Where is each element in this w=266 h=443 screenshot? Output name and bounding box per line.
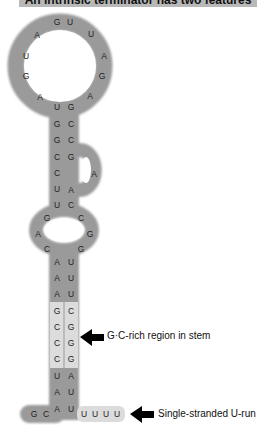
svg-text:C: C [54,322,60,332]
svg-text:A: A [68,371,74,381]
svg-text:A: A [35,229,41,239]
svg-text:U: U [68,387,74,397]
svg-text:A: A [34,30,40,40]
arrow-icon-urun [130,406,154,423]
svg-text:C: C [68,119,74,129]
svg-text:A: A [54,387,60,397]
svg-text:U: U [23,51,29,61]
svg-text:G: G [78,244,85,254]
svg-text:C: C [43,409,49,419]
svg-text:C: C [54,338,60,348]
svg-text:C: C [68,135,74,145]
svg-text:U: U [68,289,74,299]
svg-text:G: G [68,102,75,112]
terminator-diagram: A G U U A G A U G A UG GC GC CG CA UA UC… [0,0,266,443]
svg-text:U: U [68,404,74,414]
svg-text:U: U [68,273,74,283]
svg-text:A: A [54,404,60,414]
svg-text:U: U [92,409,98,419]
svg-text:G: G [31,409,38,419]
svg-text:C: C [54,168,60,178]
svg-text:A: A [68,185,74,195]
svg-text:A: A [87,91,93,101]
svg-text:A: A [37,92,43,102]
svg-text:C: C [68,200,74,210]
svg-text:A: A [54,273,60,283]
svg-text:G: G [23,71,30,81]
svg-text:G: G [44,213,51,223]
svg-text:G: G [68,152,75,162]
svg-text:G: G [54,17,61,27]
svg-text:G: G [68,322,75,332]
u-run-annotation: Single-stranded U-run [158,408,256,419]
svg-text:G: G [99,71,106,81]
svg-text:G: G [87,229,94,239]
svg-text:G: G [68,354,75,364]
svg-text:U: U [67,17,73,27]
arrow-icon-gc [80,329,104,346]
svg-text:U: U [54,102,60,112]
svg-text:U: U [88,29,94,39]
svg-text:A: A [91,169,97,179]
svg-text:C: C [54,354,60,364]
svg-text:U: U [114,409,120,419]
svg-text:U: U [68,257,74,267]
svg-text:A: A [54,289,60,299]
svg-text:A: A [54,257,60,267]
svg-text:U: U [103,409,109,419]
svg-text:U: U [54,200,60,210]
svg-text:U: U [81,409,87,419]
svg-text:G: G [54,135,61,145]
svg-text:C: C [44,244,50,254]
svg-text:U: U [54,371,60,381]
svg-text:C: C [78,213,84,223]
svg-text:C: C [54,152,60,162]
svg-text:G: G [68,338,75,348]
svg-text:A: A [101,51,107,61]
gc-rich-annotation: G·C-rich region in stem [107,330,210,341]
svg-text:G: G [54,306,61,316]
svg-text:G: G [54,119,61,129]
svg-text:U: U [54,184,60,194]
svg-text:C: C [68,306,74,316]
